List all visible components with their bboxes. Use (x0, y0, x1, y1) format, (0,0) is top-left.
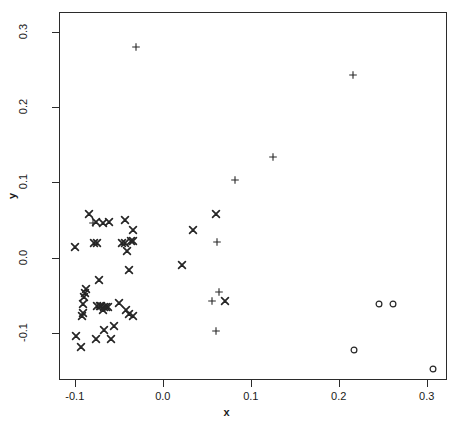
y-axis-tick (52, 258, 59, 259)
x-axis-title: x (0, 406, 453, 418)
y-axis-tick-label: 0.2 (18, 84, 29, 130)
scatter-plot-figure: y x -0.10.00.10.20.3-0.10.00.10.20.3 (0, 0, 453, 424)
plot-frame (59, 12, 447, 380)
x-axis-tick (163, 380, 164, 387)
y-axis-tick (52, 107, 59, 108)
y-axis-tick-label: -0.1 (18, 309, 29, 355)
x-axis-tick-label: 0.2 (316, 390, 362, 402)
y-axis-tick (52, 333, 59, 334)
y-axis-tick-label: 0.0 (18, 234, 29, 280)
x-axis-tick (427, 380, 428, 387)
data-points-layer (60, 13, 446, 379)
x-axis-tick (339, 380, 340, 387)
x-axis-tick-label: -0.1 (52, 390, 98, 402)
y-axis-tick (52, 182, 59, 183)
x-axis-tick-label: 0.1 (228, 390, 274, 402)
y-axis-tick (52, 32, 59, 33)
x-axis-tick (251, 380, 252, 387)
y-axis-tick-label: 0.1 (18, 159, 29, 205)
x-axis-tick-label: 0.3 (404, 390, 450, 402)
y-axis-tick-label: 0.3 (18, 9, 29, 55)
x-axis-tick (75, 380, 76, 387)
x-axis-tick-label: 0.0 (140, 390, 186, 402)
